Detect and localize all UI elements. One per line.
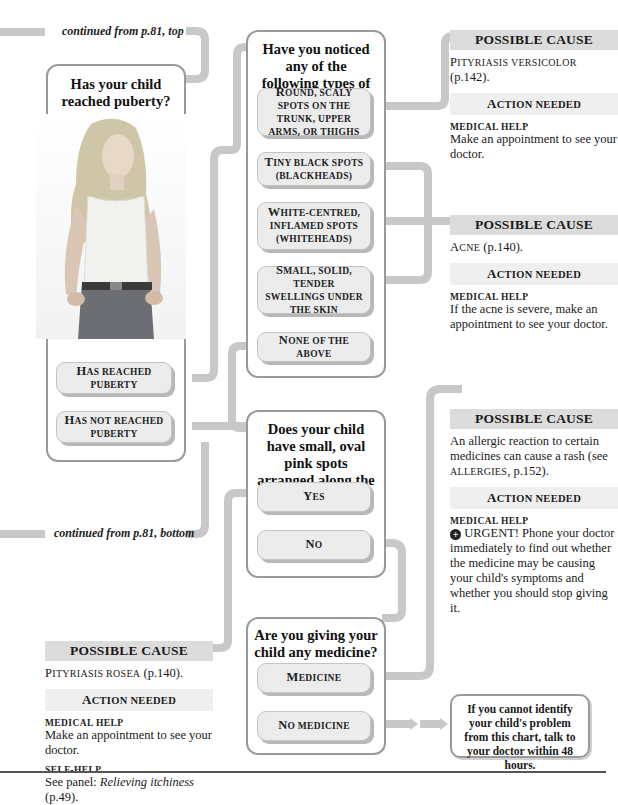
option-has-not-reached-puberty[interactable]: Has not reached puberty <box>56 411 172 443</box>
medical-help-text: Make an appointment to see your doctor. <box>450 132 618 162</box>
puberty-question-box: Has your child reached puberty? Has reac… <box>46 64 186 462</box>
cause-pityriasis-versicolor: POSSIBLE CAUSE Pityriasis versicolor (p.… <box>450 30 618 162</box>
option-no-medicine[interactable]: No medicine <box>257 711 371 741</box>
option-no[interactable]: No <box>257 530 371 560</box>
option-none-of-the-above[interactable]: None of the above <box>257 332 371 362</box>
option-tiny-black-spots[interactable]: Tiny black spots (blackheads) <box>257 152 371 186</box>
cause-text: An allergic reaction to certain medicine… <box>450 434 618 479</box>
medicine-question-box: Are you giving your child any medicine? … <box>246 617 386 755</box>
action-needed-heading: Action needed <box>45 689 213 711</box>
puberty-question-title: Has your child reached puberty? <box>48 76 184 110</box>
option-has-reached-puberty[interactable]: Has reached puberty <box>56 362 172 394</box>
self-help-label: Self-help <box>45 765 213 775</box>
medical-help-text: Make an appointment to see your doctor. <box>45 728 213 758</box>
option-small-solid-swellings[interactable]: Small, solid, tender swellings under the… <box>257 266 371 314</box>
medical-help-label: Medical help <box>450 292 618 302</box>
cause-allergic-reaction: POSSIBLE CAUSE An allergic reaction to c… <box>450 409 618 616</box>
girl-illustration-icon <box>36 114 186 339</box>
possible-cause-heading: POSSIBLE CAUSE <box>450 409 618 429</box>
medical-help-text: + URGENT! Phone your doctor immediately … <box>450 526 618 616</box>
medical-help-label: Medical help <box>450 516 618 526</box>
medical-help-text: If the acne is severe, make an appointme… <box>450 302 618 332</box>
option-yes[interactable]: Yes <box>257 482 371 512</box>
urgent-cross-icon: + <box>450 529 461 540</box>
possible-cause-heading: POSSIBLE CAUSE <box>45 641 213 661</box>
spots-question-box: Have you noticed any of the following ty… <box>246 30 386 378</box>
option-white-centred-spots[interactable]: White-centred, inflamed spots (whitehead… <box>257 202 371 250</box>
final-note-box: If you cannot identify your child's prob… <box>450 694 590 758</box>
medicine-question-title: Are you giving your child any medicine? <box>248 627 384 661</box>
action-needed-heading: Action needed <box>450 93 618 115</box>
cause-pityriasis-rosea: POSSIBLE CAUSE Pityriasis rosea (p.140).… <box>45 641 213 805</box>
possible-cause-heading: POSSIBLE CAUSE <box>450 30 618 50</box>
self-help-text: See panel: Relieving itchiness (p.49). <box>45 775 213 805</box>
continued-from-top-label: continued from p.81, top <box>62 24 184 39</box>
option-medicine[interactable]: Medicine <box>257 663 371 693</box>
cause-text: Pityriasis versicolor (p.142). <box>450 55 618 85</box>
possible-cause-heading: POSSIBLE CAUSE <box>450 215 618 235</box>
page-bottom-rule <box>0 771 606 773</box>
teenage-girl-photo <box>36 114 186 339</box>
continued-from-bottom-label: continued from p.81, bottom <box>54 526 194 541</box>
ribs-question-box: Does your child have small, oval pink sp… <box>246 410 386 578</box>
medical-help-label: Medical help <box>450 122 618 132</box>
option-round-scaly-spots[interactable]: Round, scaly spots on the trunk, upper a… <box>257 88 371 136</box>
cause-text: Acne (p.140). <box>450 240 618 255</box>
cause-acne: POSSIBLE CAUSE Acne (p.140). Action need… <box>450 215 618 332</box>
cause-text: Pityriasis rosea (p.140). <box>45 666 213 681</box>
medical-help-label: Medical help <box>45 718 213 728</box>
action-needed-heading: Action needed <box>450 263 618 285</box>
action-needed-heading: Action needed <box>450 487 618 509</box>
